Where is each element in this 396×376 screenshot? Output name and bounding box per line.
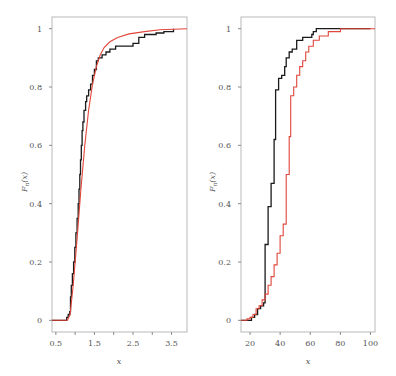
y-tick-label: 0.6 (29, 141, 42, 150)
right-plot-frame (241, 17, 375, 332)
right-axis-ticks: 00.20.40.60.8120406080100 (218, 25, 378, 348)
y-tick-label: 0.4 (29, 200, 42, 209)
x-tick-label: 1.5 (88, 339, 101, 348)
right-ylabel: Fn(x) (208, 172, 218, 193)
left-xlabel: x (117, 357, 122, 366)
x-tick-label: 60 (305, 339, 315, 348)
empirical-CDF-line (52, 29, 174, 321)
y-tick-label: 1 (226, 25, 231, 34)
x-tick-label: 80 (335, 339, 345, 348)
right-xlabel: x (306, 357, 311, 366)
y-tick-label: 0.6 (218, 141, 231, 150)
y-tick-label: 0.2 (218, 258, 231, 267)
y-tick-label: 1 (37, 25, 42, 34)
y-tick-label: 0.2 (29, 258, 42, 267)
ecdf-figure: 00.20.40.60.810.51.52.53.5 x Fn(x) 00.20… (0, 0, 396, 376)
y-tick-label: 0.8 (29, 83, 42, 92)
left-panel: 00.20.40.60.810.51.52.53.5 x Fn(x) (20, 17, 187, 366)
x-tick-label: 0.5 (49, 339, 62, 348)
left-ylabel: Fn(x) (20, 172, 30, 193)
x-tick-label: 40 (275, 339, 285, 348)
x-tick-label: 100 (363, 339, 378, 348)
right-plot-series (241, 29, 375, 321)
y-tick-label: 0.8 (218, 83, 231, 92)
left-plot-series (52, 29, 187, 321)
y-tick-label: 0 (226, 316, 231, 325)
empirical-CDF-line (241, 29, 371, 321)
right-panel: 00.20.40.60.8120406080100 x Fn(x) (208, 17, 378, 366)
y-tick-label: 0 (37, 316, 42, 325)
y-tick-label: 0.4 (218, 200, 231, 209)
comparison-CDF-line (241, 29, 375, 321)
x-tick-label: 20 (245, 339, 255, 348)
x-tick-label: 3.5 (165, 339, 178, 348)
x-tick-label: 2.5 (127, 339, 140, 348)
